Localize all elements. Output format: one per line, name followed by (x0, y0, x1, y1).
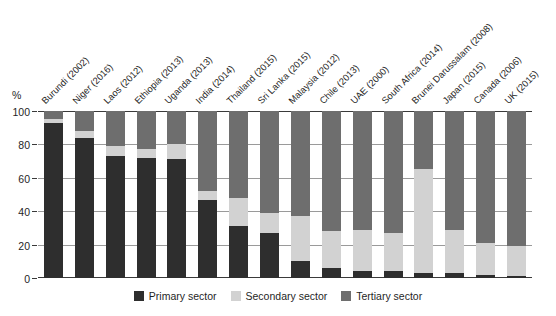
segment-secondary (75, 131, 94, 138)
y-axis-tick-mark (32, 245, 37, 246)
segment-secondary (106, 146, 125, 156)
segment-primary (353, 271, 372, 278)
segment-tertiary (445, 111, 464, 230)
segment-tertiary (167, 111, 186, 144)
stacked-bar-chart: % Burundi (2002)Niger (2016)Laos (2012)E… (0, 0, 556, 316)
segment-secondary (198, 191, 217, 199)
segment-primary (507, 276, 526, 278)
segment-primary (44, 123, 63, 278)
bar-uk-2015[interactable] (507, 111, 526, 278)
segment-primary (137, 158, 156, 278)
bar-laos-2012[interactable] (106, 111, 125, 278)
segment-primary (384, 271, 403, 278)
segment-tertiary (384, 111, 403, 233)
bar-burundi-2002[interactable] (44, 111, 63, 278)
segment-primary (198, 200, 217, 278)
y-axis-tick-label: 80 (4, 139, 30, 151)
legend-label: Tertiary sector (356, 290, 422, 302)
y-axis-tick-mark (32, 144, 37, 145)
y-axis-tick-mark (32, 111, 37, 112)
segment-primary (322, 268, 341, 278)
segment-tertiary (75, 111, 94, 131)
plot-area (38, 111, 532, 278)
bar-uganda-2013[interactable] (167, 111, 186, 278)
bars-layer (38, 111, 532, 278)
segment-secondary (137, 149, 156, 157)
bar-brunei-darussalam-2008[interactable] (414, 111, 433, 278)
segment-secondary (291, 216, 310, 261)
segment-secondary (476, 243, 495, 275)
segment-tertiary (476, 111, 495, 243)
segment-tertiary (291, 111, 310, 216)
segment-secondary (384, 233, 403, 271)
legend-item[interactable]: Secondary sector (231, 290, 328, 302)
legend-item[interactable]: Primary sector (134, 290, 217, 302)
legend-swatch-icon (341, 291, 351, 301)
segment-primary (229, 226, 248, 278)
segment-primary (75, 138, 94, 278)
legend-item[interactable]: Tertiary sector (341, 290, 422, 302)
y-axis-tick-label: 0 (4, 273, 30, 285)
segment-primary (260, 233, 279, 278)
bar-ethiopia-2013[interactable] (137, 111, 156, 278)
bar-niger-2016[interactable] (75, 111, 94, 278)
y-axis-tick-mark (32, 178, 37, 179)
segment-primary (445, 273, 464, 278)
y-axis-tick-label: 40 (4, 206, 30, 218)
bar-thailand-2015[interactable] (229, 111, 248, 278)
segment-tertiary (414, 111, 433, 169)
bar-india-2014[interactable] (198, 111, 217, 278)
segment-primary (414, 273, 433, 278)
segment-tertiary (229, 111, 248, 198)
segment-tertiary (198, 111, 217, 191)
segment-tertiary (44, 111, 63, 119)
y-axis-tick-label: 20 (4, 240, 30, 252)
segment-tertiary (106, 111, 125, 146)
bar-sri-lanka-2015[interactable] (260, 111, 279, 278)
chart-legend: Primary sectorSecondary sectorTertiary s… (0, 290, 556, 302)
legend-label: Secondary sector (246, 290, 328, 302)
bar-malaysia-2012[interactable] (291, 111, 310, 278)
legend-swatch-icon (231, 291, 241, 301)
bar-japan-2015[interactable] (445, 111, 464, 278)
segment-tertiary (322, 111, 341, 231)
segment-secondary (507, 246, 526, 276)
segment-secondary (445, 230, 464, 273)
bar-canada-2006[interactable] (476, 111, 495, 278)
y-axis-tick-label: 60 (4, 173, 30, 185)
legend-label: Primary sector (149, 290, 217, 302)
bar-south-africa-2014[interactable] (384, 111, 403, 278)
y-axis-tick-mark (32, 278, 37, 279)
bar-uae-2000[interactable] (353, 111, 372, 278)
legend-swatch-icon (134, 291, 144, 301)
y-axis-tick-mark (32, 211, 37, 212)
segment-secondary (414, 169, 433, 273)
segment-secondary (322, 231, 341, 268)
segment-secondary (44, 119, 63, 122)
y-axis-unit-label: % (12, 89, 21, 101)
segment-secondary (229, 198, 248, 226)
segment-tertiary (507, 111, 526, 246)
segment-tertiary (260, 111, 279, 213)
segment-secondary (167, 144, 186, 159)
segment-primary (291, 261, 310, 278)
y-axis-tick-label: 100 (4, 106, 30, 118)
segment-secondary (260, 213, 279, 233)
segment-primary (106, 156, 125, 278)
segment-primary (167, 159, 186, 278)
segment-tertiary (353, 111, 372, 230)
x-axis-category-labels: Burundi (2002)Niger (2016)Laos (2012)Eth… (38, 0, 538, 108)
segment-tertiary (137, 111, 156, 149)
segment-secondary (353, 230, 372, 272)
segment-primary (476, 275, 495, 278)
bar-chile-2013[interactable] (322, 111, 341, 278)
